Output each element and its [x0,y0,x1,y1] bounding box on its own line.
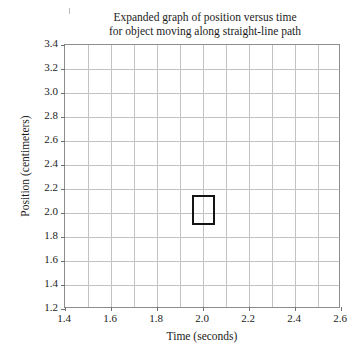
grid-line-horizontal [65,93,339,94]
x-axis-tick-label: 1.8 [149,312,163,324]
x-axis-tick-label: 2.2 [241,312,255,324]
grid-line-vertical [157,45,158,307]
y-axis-tick [61,213,65,214]
x-axis-title: Time (seconds) [64,330,340,342]
y-axis-tick [61,45,65,46]
y-axis-tick-label: 1.2 [44,301,58,313]
grid-line-horizontal [65,237,339,238]
chart-figure: Expanded graph of position versus time f… [0,0,362,351]
plot-area [64,44,340,308]
chart-title-line-2: for object moving along straight-line pa… [60,25,350,39]
grid-line-vertical [203,45,204,307]
grid-line-vertical [180,45,181,307]
chart-title: Expanded graph of position versus time f… [60,11,350,38]
y-axis-tick [61,69,65,70]
x-axis-tick [111,307,112,311]
y-axis-title: Position (centimeters) [19,76,31,256]
x-axis-tick [249,307,250,311]
y-axis-tick-label: 2.4 [44,157,58,169]
x-axis-tick-labels: 1.41.61.82.02.22.42.6 [64,312,340,328]
grid-line-horizontal [65,141,339,142]
grid-line-vertical [134,45,135,307]
x-axis-tick [65,307,66,311]
y-axis-tick [61,237,65,238]
grid-line-vertical [111,45,112,307]
y-axis-tick [61,141,65,142]
y-axis-tick-label: 1.6 [44,253,58,265]
grid-line-vertical [295,45,296,307]
y-axis-tick-label: 2.2 [44,181,58,193]
y-axis-tick-label: 1.8 [44,229,58,241]
grid-line-horizontal [65,165,339,166]
y-axis-tick [61,165,65,166]
y-axis-tick-label: 2.8 [44,109,58,121]
y-axis-tick-label: 1.4 [44,277,58,289]
grid-line-vertical [88,45,89,307]
x-axis-tick-label: 2.4 [287,312,301,324]
y-axis-tick [61,117,65,118]
grid-line-vertical [226,45,227,307]
highlight-region-box [192,195,215,225]
grid-line-horizontal [65,117,339,118]
grid-line-vertical [249,45,250,307]
x-axis-tick-label: 2.0 [195,312,209,324]
grid-line-horizontal [65,69,339,70]
grid-line-vertical [318,45,319,307]
grid-line-horizontal [65,261,339,262]
y-axis-tick-label: 2.0 [44,205,58,217]
y-axis-tick [61,285,65,286]
x-axis-tick [203,307,204,311]
y-axis-tick-label: 2.6 [44,133,58,145]
x-axis-tick [341,307,342,311]
x-axis-tick-label: 1.4 [57,312,71,324]
y-axis-tick [61,261,65,262]
y-axis-tick-label: 3.0 [44,85,58,97]
x-axis-tick-label: 2.6 [333,312,347,324]
x-axis-tick-label: 1.6 [103,312,117,324]
y-axis-tick [61,189,65,190]
x-axis-tick [295,307,296,311]
y-axis-tick-label: 3.2 [44,61,58,73]
y-axis-tick [61,93,65,94]
grid-line-horizontal [65,285,339,286]
y-axis-tick-label: 3.4 [44,37,58,49]
grid-line-horizontal [65,189,339,190]
x-axis-tick [157,307,158,311]
chart-title-line-1: Expanded graph of position versus time [60,11,350,25]
grid-line-vertical [272,45,273,307]
